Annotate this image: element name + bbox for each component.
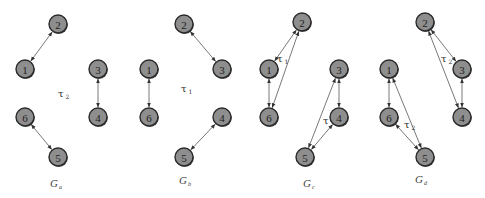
edge-4-5 xyxy=(191,124,215,150)
node-4: 4 xyxy=(330,108,349,127)
node-label: 2 xyxy=(181,19,187,31)
node-6: 6 xyxy=(260,108,279,127)
graph-caption-d: Gd xyxy=(415,173,428,186)
node-label: 1 xyxy=(22,64,28,76)
node-label: 4 xyxy=(336,112,342,124)
tau-label-c-2: τ xyxy=(323,115,329,126)
node-3: 3 xyxy=(453,60,472,79)
node-label: 5 xyxy=(302,152,308,164)
node-label: 4 xyxy=(95,112,101,124)
node-label: 3 xyxy=(219,64,225,76)
node-label: 5 xyxy=(55,152,61,164)
node-1: 1 xyxy=(16,60,35,79)
nodes-layer: 123456123456123456123456 xyxy=(16,13,472,167)
graph-caption-c: Gc xyxy=(303,177,315,190)
node-label: 3 xyxy=(336,64,342,76)
node-2: 2 xyxy=(175,15,194,34)
edge-6-5 xyxy=(31,125,51,150)
node-2: 2 xyxy=(416,13,435,32)
node-2: 2 xyxy=(293,13,312,32)
graph-c-nodes: 123456 xyxy=(260,13,349,167)
node-label: 1 xyxy=(386,64,392,76)
node-label: 5 xyxy=(422,152,428,164)
node-1: 1 xyxy=(380,60,399,79)
node-1: 1 xyxy=(260,60,279,79)
edge-4-5 xyxy=(311,125,332,150)
node-label: 4 xyxy=(459,112,465,124)
node-label: 6 xyxy=(22,112,28,124)
node-label: 2 xyxy=(422,17,428,29)
graph-figure: 123456123456123456123456 τ2Gaτ1Gbτ1τGcτ2… xyxy=(0,0,485,198)
edge-2-3 xyxy=(190,32,215,62)
graph-caption-a: Ga xyxy=(50,177,62,190)
node-2: 2 xyxy=(49,15,68,34)
node-3: 3 xyxy=(89,60,108,79)
node-6: 6 xyxy=(140,108,159,127)
node-label: 6 xyxy=(146,112,152,124)
node-label: 6 xyxy=(386,112,392,124)
node-3: 3 xyxy=(330,60,349,79)
node-5: 5 xyxy=(175,148,194,167)
node-4: 4 xyxy=(89,108,108,127)
node-4: 4 xyxy=(213,108,232,127)
tau-label-b: τ1 xyxy=(181,83,192,95)
graph-a-edges xyxy=(31,32,98,149)
node-label: 2 xyxy=(55,19,61,31)
tau-label-a: τ2 xyxy=(58,88,70,100)
node-4: 4 xyxy=(453,108,472,127)
graph-caption-b: Gb xyxy=(179,174,191,187)
node-label: 5 xyxy=(181,152,187,164)
node-label: 3 xyxy=(459,64,465,76)
edge-1-2 xyxy=(31,32,52,61)
node-5: 5 xyxy=(296,148,315,167)
node-label: 2 xyxy=(299,17,305,29)
graph-c-edges xyxy=(269,30,339,149)
node-label: 3 xyxy=(95,64,101,76)
node-label: 1 xyxy=(266,64,272,76)
node-6: 6 xyxy=(380,108,399,127)
tau-label-c: τ1 xyxy=(277,53,288,65)
graph-d-nodes: 123456 xyxy=(380,13,472,167)
node-label: 6 xyxy=(266,112,272,124)
node-5: 5 xyxy=(416,148,435,167)
node-5: 5 xyxy=(49,148,68,167)
node-3: 3 xyxy=(213,60,232,79)
edges-layer xyxy=(31,30,462,150)
node-label: 4 xyxy=(219,112,225,124)
graph-d-edges xyxy=(389,30,462,150)
node-6: 6 xyxy=(16,108,35,127)
node-label: 1 xyxy=(146,64,152,76)
node-1: 1 xyxy=(140,60,159,79)
